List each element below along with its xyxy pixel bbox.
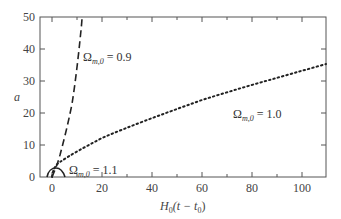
x-tick-labels: 0 20 40 60 80 100 xyxy=(49,181,311,195)
x-ticks xyxy=(52,17,302,177)
y-tick-label: 30 xyxy=(23,74,35,88)
curve-omega-0-9 xyxy=(52,17,82,177)
y-tick-label: 0 xyxy=(29,170,35,184)
x-tick-label: 40 xyxy=(146,181,158,195)
curve-omega-1-1 xyxy=(47,168,65,177)
x-tick-label: 100 xyxy=(293,181,311,195)
y-axis-label: a xyxy=(14,90,20,104)
chart: 0 20 40 60 80 100 0 10 20 30 40 50 a H0(… xyxy=(0,0,341,219)
x-tick-label: 20 xyxy=(96,181,108,195)
curve-omega-1-0 xyxy=(52,64,326,177)
x-axis-label: H0(t − t0) xyxy=(159,199,205,215)
x-tick-label: 60 xyxy=(196,181,208,195)
y-tick-label: 20 xyxy=(23,106,35,120)
plot-frame xyxy=(40,17,326,177)
y-tick-label: 10 xyxy=(23,138,35,152)
label-omega-0-9: Ωm,0 = 0.9 xyxy=(83,50,131,66)
x-tick-label: 80 xyxy=(246,181,258,195)
y-tick-labels: 0 10 20 30 40 50 xyxy=(23,10,35,184)
x-tick-label: 0 xyxy=(49,181,55,195)
label-omega-1-1: Ωm,0 = 1.1 xyxy=(69,163,117,179)
y-tick-label: 40 xyxy=(23,42,35,56)
y-tick-label: 50 xyxy=(23,10,35,24)
label-omega-1-0: Ωm,0 = 1.0 xyxy=(233,107,281,123)
